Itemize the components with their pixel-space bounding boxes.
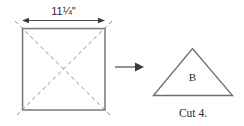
diagram-canvas: 11¼" B Cut 4. [0, 0, 244, 126]
right-arrow-icon [115, 63, 144, 72]
arrow-head [135, 63, 144, 72]
fabric-square [15, 21, 112, 117]
triangle-label: B [189, 71, 196, 83]
double-headed-arrow-icon [22, 18, 105, 23]
cut-caption: Cut 4. [179, 107, 207, 119]
dimension-label: 11¼" [51, 5, 76, 17]
triangle-piece: B [154, 49, 233, 96]
cutting-diagram: 11¼" B Cut 4. [0, 0, 244, 126]
dimension-arrowhead-right [98, 18, 105, 23]
dimension-arrowhead-left [22, 18, 29, 23]
dimension-annotation: 11¼" [22, 5, 105, 24]
diagonal-fold-lines [15, 21, 112, 117]
